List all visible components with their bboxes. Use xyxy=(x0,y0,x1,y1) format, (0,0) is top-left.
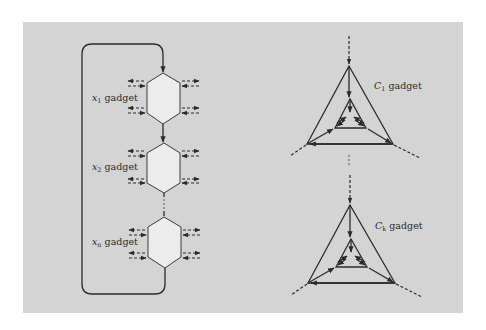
gadget-diagram: x1 gadget x2 gadget xn gadget xyxy=(0,0,486,330)
diagram-panel xyxy=(23,22,463,313)
